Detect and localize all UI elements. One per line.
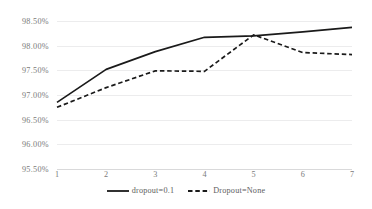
y-axis-tick-label: 95.50% [22, 165, 49, 174]
y-axis-tick-label: 98.50% [22, 17, 49, 26]
line-chart: 98.50%98.00%97.50%97.00%96.50%96.00%95.5… [0, 0, 372, 209]
legend-item[interactable]: dropout=0.1 [107, 186, 175, 195]
series-lines [57, 21, 352, 169]
y-axis-tick-label: 98.00% [22, 41, 49, 50]
y-axis-tick-label: 97.50% [22, 66, 49, 75]
x-axis-tick-label: 4 [202, 170, 206, 179]
x-axis-tick-label: 2 [104, 170, 108, 179]
series-line [57, 27, 352, 102]
y-axis-tick-labels: 98.50%98.00%97.50%97.00%96.50%96.00%95.5… [0, 0, 53, 191]
y-axis-tick-label: 97.00% [22, 91, 49, 100]
x-axis-tick-labels: 1234567 [57, 170, 352, 184]
x-axis-tick-label: 6 [301, 170, 305, 179]
series-line [57, 35, 352, 108]
y-axis-tick-label: 96.50% [22, 115, 49, 124]
y-axis-tick-label: 96.00% [22, 140, 49, 149]
x-axis-tick-label: 7 [350, 170, 354, 179]
legend-label: Dropout=None [213, 186, 265, 195]
x-axis-tick-label: 5 [252, 170, 256, 179]
dashed-line-icon [188, 187, 210, 195]
x-axis-tick-label: 3 [153, 170, 157, 179]
plot-area [57, 21, 352, 169]
solid-line-icon [107, 187, 129, 195]
chart-legend: dropout=0.1Dropout=None [0, 186, 372, 195]
x-axis-tick-label: 1 [55, 170, 59, 179]
legend-item[interactable]: Dropout=None [188, 186, 265, 195]
legend-label: dropout=0.1 [132, 186, 175, 195]
